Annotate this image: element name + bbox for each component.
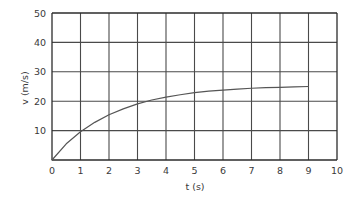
x-tick-label: 10 [331, 165, 343, 176]
x-axis-title: t (s) [185, 181, 204, 192]
x-tick-label: 8 [277, 165, 283, 176]
x-tick-label: 0 [49, 165, 55, 176]
x-tick-label: 7 [248, 165, 254, 176]
x-tick-label: 1 [77, 165, 83, 176]
x-tick-label: 3 [134, 165, 140, 176]
x-tick-label: 5 [191, 165, 197, 176]
x-tick-label: 2 [106, 165, 112, 176]
y-tick-label: 20 [34, 96, 46, 107]
x-tick-label: 6 [220, 165, 226, 176]
y-tick-label: 50 [34, 8, 46, 19]
y-tick-label: 40 [34, 37, 46, 48]
y-axis-title: v (m/s) [19, 71, 30, 104]
chart-canvas: 012345678910 1020304050 t (s) v (m/s) [0, 0, 360, 198]
x-tick-label: 4 [163, 165, 169, 176]
x-tick-label: 9 [305, 165, 311, 176]
y-tick-label: 30 [34, 66, 46, 77]
y-tick-label: 10 [34, 125, 46, 136]
velocity-time-chart: 012345678910 1020304050 t (s) v (m/s) [0, 0, 360, 198]
